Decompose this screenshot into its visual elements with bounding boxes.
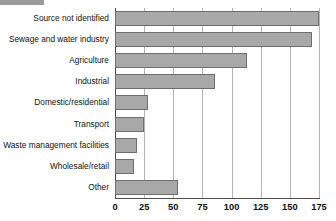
bar-row bbox=[115, 114, 319, 135]
bar-series bbox=[115, 8, 319, 198]
page-rule-decoration bbox=[0, 0, 44, 5]
x-tick-label: 150 bbox=[282, 202, 298, 212]
bar bbox=[115, 32, 312, 47]
gridline-175 bbox=[319, 8, 320, 198]
x-tick-label: 125 bbox=[253, 202, 269, 212]
x-axis-tick-labels: 0255075100125150175 bbox=[0, 202, 336, 218]
bar-row bbox=[115, 29, 319, 50]
bar-row bbox=[115, 135, 319, 156]
x-tick-label: 0 bbox=[112, 202, 117, 212]
bar-row bbox=[115, 71, 319, 92]
bar bbox=[115, 53, 247, 68]
category-axis-labels: Source not identifiedSewage and water in… bbox=[0, 8, 112, 198]
x-tick-label: 100 bbox=[224, 202, 240, 212]
bar-chart: Source not identifiedSewage and water in… bbox=[0, 0, 336, 221]
category-label: Domestic/residential bbox=[34, 92, 109, 113]
bar-row bbox=[115, 156, 319, 177]
category-label: Wholesale/retail bbox=[50, 156, 109, 177]
bar-row bbox=[115, 177, 319, 198]
bar-row bbox=[115, 8, 319, 29]
bar bbox=[115, 117, 144, 132]
category-label: Sewage and water industry bbox=[9, 29, 109, 50]
category-label: Industrial bbox=[75, 71, 109, 92]
x-tick-label: 175 bbox=[311, 202, 327, 212]
category-label: Waste management facilities bbox=[3, 135, 109, 156]
bar-row bbox=[115, 50, 319, 71]
category-label: Transport bbox=[74, 114, 109, 135]
bar bbox=[115, 138, 137, 153]
x-axis-line bbox=[115, 198, 320, 199]
bar-row bbox=[115, 92, 319, 113]
bar bbox=[115, 180, 178, 195]
category-label: Agriculture bbox=[69, 50, 109, 71]
bar bbox=[115, 159, 134, 174]
bar bbox=[115, 74, 215, 89]
bar bbox=[115, 95, 148, 110]
x-tick-label: 25 bbox=[139, 202, 149, 212]
category-label: Source not identified bbox=[33, 8, 109, 29]
x-tick-label: 75 bbox=[197, 202, 207, 212]
plot-area bbox=[115, 8, 319, 198]
category-label: Other bbox=[88, 177, 109, 198]
bar bbox=[115, 11, 319, 26]
x-tick-label: 50 bbox=[168, 202, 178, 212]
